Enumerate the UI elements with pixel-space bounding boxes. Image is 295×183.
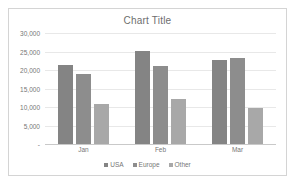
bar[interactable] bbox=[135, 51, 150, 144]
bar-group bbox=[122, 33, 199, 144]
legend-label: Europe bbox=[139, 161, 160, 168]
bar-series-layer bbox=[45, 33, 276, 144]
x-axis-labels: JanFebMar bbox=[45, 146, 276, 158]
bar[interactable] bbox=[76, 74, 91, 144]
bar[interactable] bbox=[171, 99, 186, 144]
chart-title[interactable]: Chart Title bbox=[9, 15, 286, 26]
bar-group bbox=[199, 33, 276, 144]
legend-item[interactable]: USA bbox=[104, 161, 123, 168]
legend-label: Other bbox=[175, 161, 191, 168]
y-axis-tick-label: - bbox=[38, 141, 40, 148]
y-axis-tick-label: 20,000 bbox=[20, 67, 40, 74]
y-axis-tick-label: 5,000 bbox=[24, 122, 40, 129]
bar-group bbox=[45, 33, 122, 144]
legend-swatch-icon bbox=[133, 163, 137, 167]
y-axis-tick-label: 30,000 bbox=[20, 30, 40, 37]
bar[interactable] bbox=[212, 60, 227, 144]
gridline bbox=[45, 144, 276, 145]
bar[interactable] bbox=[94, 104, 109, 144]
chart-legend[interactable]: USAEuropeOther bbox=[9, 161, 286, 168]
bar[interactable] bbox=[230, 58, 245, 144]
legend-swatch-icon bbox=[169, 163, 173, 167]
y-axis-tick-label: 25,000 bbox=[20, 48, 40, 55]
legend-label: USA bbox=[110, 161, 123, 168]
legend-item[interactable]: Europe bbox=[133, 161, 160, 168]
bar[interactable] bbox=[248, 108, 263, 144]
legend-swatch-icon bbox=[104, 163, 108, 167]
legend-item[interactable]: Other bbox=[169, 161, 191, 168]
x-axis-tick-label: Mar bbox=[199, 146, 276, 153]
y-axis-tick-label: 10,000 bbox=[20, 104, 40, 111]
plot-area: 30,00025,00020,00015,00010,0005,000- bbox=[45, 33, 276, 144]
bar[interactable] bbox=[153, 66, 168, 144]
x-axis-tick-label: Jan bbox=[45, 146, 122, 153]
y-axis-tick-label: 15,000 bbox=[20, 85, 40, 92]
chart-container[interactable]: Chart Title 30,00025,00020,00015,00010,0… bbox=[8, 8, 287, 176]
bar[interactable] bbox=[58, 65, 73, 144]
x-axis-tick-label: Feb bbox=[122, 146, 199, 153]
